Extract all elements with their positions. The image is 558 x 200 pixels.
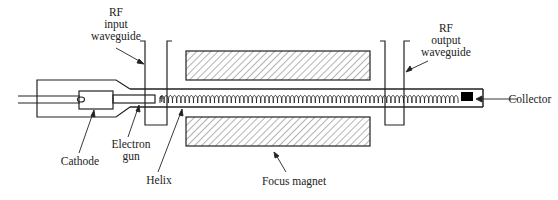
label-rf-input: RF input waveguide [80,6,152,42]
electron-gun-rod [113,95,155,103]
tube-envelope [37,80,130,117]
label-cathode: Cathode [58,155,102,167]
collector-block [461,92,473,101]
label-collector: Collector [502,93,558,105]
twt-diagram: RF input waveguide RF output waveguide C… [0,0,558,200]
label-electron-gun: Electron gun [108,138,154,162]
label-line: waveguide [410,46,482,58]
label-helix: Helix [144,174,174,186]
label-focus-magnet: Focus magnet [254,175,334,187]
helix [160,96,458,104]
label-line: input [80,18,152,30]
focus-magnet-bottom [186,117,370,146]
label-line: waveguide [80,30,152,42]
rf-input-waveguide [140,41,172,125]
focus-magnet-top [186,51,370,80]
label-rf-output: RF output waveguide [410,22,482,58]
label-line: gun [108,150,154,162]
label-line: RF [410,22,482,34]
rf-output-waveguide [380,41,410,125]
label-line: RF [80,6,152,18]
label-line: Electron [108,138,154,150]
cathode-leads [18,96,80,103]
label-line: output [410,34,482,46]
